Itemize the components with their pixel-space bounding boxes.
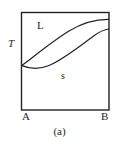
endpoint-label-a: A bbox=[22, 111, 30, 122]
region-label-liquid: L bbox=[37, 20, 44, 31]
region-label-solid: s bbox=[61, 71, 65, 81]
axis-label-temperature: T bbox=[8, 38, 14, 49]
liquidus-curve bbox=[22, 19, 108, 65]
phase-diagram-figure: T L s A B (a) bbox=[0, 0, 119, 146]
figure-caption: (a) bbox=[0, 126, 119, 137]
plot-frame bbox=[22, 13, 110, 111]
endpoint-label-b: B bbox=[101, 111, 108, 122]
solidus-curve bbox=[22, 29, 108, 68]
